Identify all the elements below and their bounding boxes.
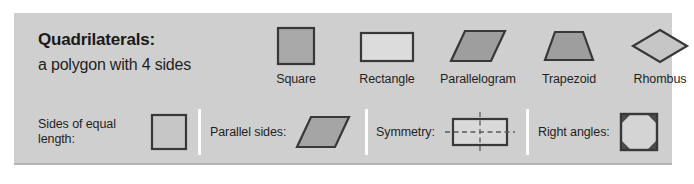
quadrilaterals-poster: Quadrilaterals: a polygon with 4 sides S…: [14, 13, 672, 165]
property-label: Symmetry:: [376, 125, 435, 140]
section-divider: [198, 109, 201, 155]
shape-item-parallelogram: Parallelogram: [439, 25, 517, 86]
shape-label: Square: [276, 72, 316, 86]
shape-item-trapezoid: Trapezoid: [530, 25, 608, 86]
right-angle-square-icon: [619, 112, 659, 152]
shape-item-square: Square: [257, 25, 335, 86]
shape-label: Rhombus: [634, 72, 687, 86]
square-icon: [150, 113, 188, 151]
trapezoid-icon: [542, 26, 596, 66]
symmetry-art: [444, 110, 516, 154]
definition-term: Quadrilaterals:: [38, 29, 253, 50]
rectangle-icon: [359, 26, 415, 66]
shape-label: Rectangle: [359, 72, 414, 86]
symmetry-rectangle-icon: [444, 110, 516, 154]
property-label: Sides of equal length:: [38, 117, 141, 147]
shape-label: Parallelogram: [440, 72, 516, 86]
parallel-sides-art: [295, 112, 351, 152]
equal-sides-art: [150, 113, 188, 151]
right-angles-art: [619, 112, 659, 152]
shape-label: Trapezoid: [542, 72, 596, 86]
properties-row: Sides of equal length: Parallel sides: S…: [14, 99, 672, 165]
parallelogram-icon: [295, 112, 351, 152]
definition-and-shapes-row: Quadrilaterals: a polygon with 4 sides S…: [14, 13, 672, 97]
property-item-parallel-sides: Parallel sides:: [210, 107, 365, 157]
definition-description: a polygon with 4 sides: [38, 54, 253, 75]
square-shape-art: [276, 25, 316, 67]
trapezoid-shape-art: [542, 25, 596, 67]
shape-item-rectangle: Rectangle: [348, 25, 426, 86]
rhombus-shape-art: [630, 25, 690, 67]
shape-examples-strip: Square Rectangle Parallelogram: [257, 25, 694, 86]
property-item-right-angles: Right angles:: [538, 107, 678, 157]
property-item-symmetry: Symmetry:: [376, 107, 526, 157]
shape-item-rhombus: Rhombus: [621, 25, 694, 86]
rhombus-icon: [630, 26, 690, 66]
property-label: Right angles:: [538, 125, 610, 140]
section-divider: [526, 109, 529, 155]
definition-block: Quadrilaterals: a polygon with 4 sides: [38, 29, 253, 75]
parallelogram-icon: [449, 26, 507, 66]
square-icon: [276, 26, 316, 66]
rectangle-shape-art: [359, 25, 415, 67]
parallelogram-shape-art: [449, 25, 507, 67]
property-label: Parallel sides:: [210, 125, 286, 140]
section-divider: [365, 109, 368, 155]
property-item-equal-sides: Sides of equal length:: [38, 107, 188, 157]
